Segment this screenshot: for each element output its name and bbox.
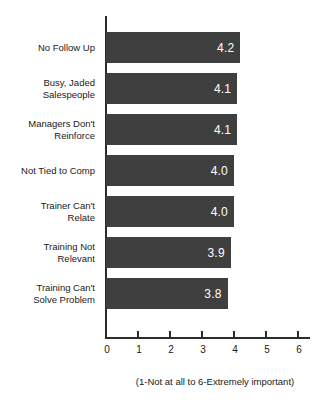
bar: 4.0 [106,196,234,227]
x-tick-label: 5 [257,344,277,356]
bar-value-label: 4.1 [214,83,231,95]
bar: 4.2 [106,32,240,63]
category-label: Busy, Jaded Salespeople [0,73,100,104]
bar-value-label: 4.0 [211,206,228,218]
bar-row: 3.9 [106,237,326,268]
x-tick [201,331,203,339]
bar-row: 4.1 [106,73,326,104]
bar: 4.0 [106,155,234,186]
category-label: Training Not Relevant [0,237,100,268]
bar-value-label: 4.2 [217,42,234,54]
plot-area: No Follow Up Busy, Jaded Salespeople Man… [0,0,333,405]
bar-value-label: 4.0 [211,165,228,177]
x-tick [137,331,139,339]
bar-value-label: 4.1 [214,124,231,136]
x-tick-label: 3 [193,344,213,356]
x-tick-label: 2 [161,344,181,356]
category-label: Managers Don't Reinforce [0,114,100,145]
x-axis-caption: (1-Not at all to 6-Extremely important) [105,376,325,388]
x-axis-ticks [0,331,333,339]
category-label: Trainer Can't Relate [0,196,100,227]
x-tick [297,331,299,339]
bar-value-label: 3.9 [208,247,225,259]
x-tick-label: 1 [129,344,149,356]
x-tick [265,331,267,339]
category-label: Training Can't Solve Problem [0,278,100,309]
x-tick [105,331,107,339]
bar: 3.9 [106,237,231,268]
x-tick [169,331,171,339]
bar-value-label: 3.8 [204,288,221,300]
x-tick-label: 6 [289,344,309,356]
bar-row: 3.8 [106,278,326,309]
bar: 4.1 [106,73,237,104]
bar-row: 4.0 [106,196,326,227]
bar-row: 4.1 [106,114,326,145]
x-tick-label: 4 [225,344,245,356]
bar-series: 4.2 4.1 4.1 4.0 4.0 [106,32,326,320]
x-tick-label: 0 [97,344,117,356]
category-axis-labels: No Follow Up Busy, Jaded Salespeople Man… [0,32,100,320]
bar-chart: No Follow Up Busy, Jaded Salespeople Man… [0,0,333,405]
bar: 3.8 [106,278,228,309]
bar-row: 4.2 [106,32,326,63]
category-label: Not Tied to Comp [0,155,100,186]
x-axis-tick-labels: 0 1 2 3 4 5 6 [0,344,333,358]
bar-row: 4.0 [106,155,326,186]
bar: 4.1 [106,114,237,145]
x-tick [233,331,235,339]
category-label: No Follow Up [0,32,100,63]
